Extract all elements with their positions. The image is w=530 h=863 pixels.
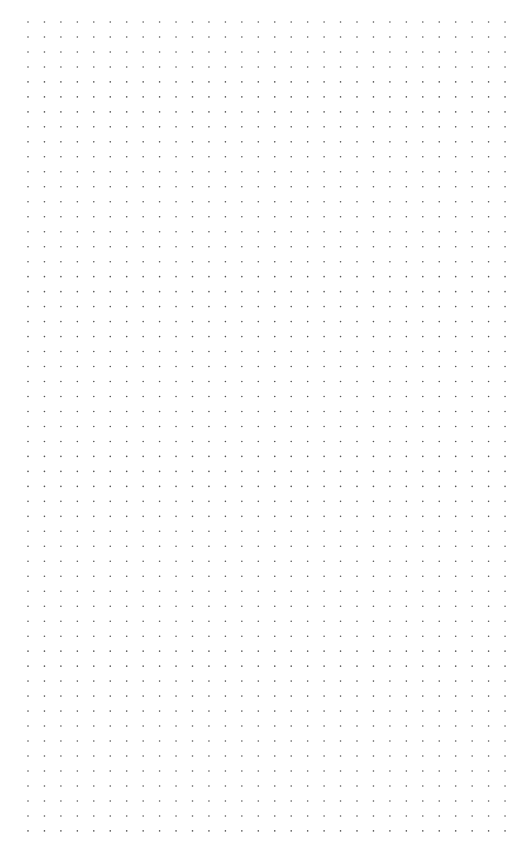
grid-dot — [225, 800, 227, 802]
grid-dot — [225, 755, 227, 757]
grid-dot — [406, 351, 408, 353]
grid-dot — [488, 785, 490, 787]
grid-dot — [307, 471, 309, 473]
grid-dot — [340, 276, 342, 278]
grid-dot — [192, 411, 194, 413]
grid-dot — [159, 560, 161, 562]
grid-dot — [159, 171, 161, 173]
grid-dot — [126, 770, 128, 772]
grid-dot — [455, 620, 457, 622]
grid-dot — [422, 830, 424, 832]
grid-dot — [307, 695, 309, 697]
grid-dot — [77, 126, 79, 128]
grid-dot — [60, 156, 62, 158]
grid-dot — [208, 800, 210, 802]
grid-dot — [471, 201, 473, 203]
grid-dot — [373, 51, 375, 53]
grid-dot — [77, 501, 79, 503]
grid-dot — [175, 605, 177, 607]
grid-dot — [504, 36, 506, 38]
grid-dot — [126, 156, 128, 158]
grid-dot — [307, 246, 309, 248]
grid-dot — [44, 126, 46, 128]
grid-dot — [142, 141, 144, 143]
grid-dot — [126, 665, 128, 667]
grid-dot — [438, 620, 440, 622]
grid-dot — [274, 126, 276, 128]
grid-dot — [356, 186, 358, 188]
grid-dot — [323, 126, 325, 128]
grid-dot — [438, 695, 440, 697]
grid-dot — [504, 815, 506, 817]
grid-dot — [225, 156, 227, 158]
grid-dot — [406, 516, 408, 518]
grid-dot — [406, 441, 408, 443]
grid-dot — [44, 231, 46, 233]
grid-dot — [77, 830, 79, 832]
grid-dot — [488, 381, 490, 383]
grid-dot — [208, 560, 210, 562]
grid-dot — [290, 171, 292, 173]
grid-dot — [504, 501, 506, 503]
grid-dot — [340, 411, 342, 413]
grid-dot — [192, 575, 194, 577]
grid-dot — [323, 426, 325, 428]
grid-dot — [93, 66, 95, 68]
grid-dot — [422, 111, 424, 113]
grid-dot — [340, 351, 342, 353]
grid-dot — [192, 201, 194, 203]
grid-dot — [258, 501, 260, 503]
grid-dot — [438, 665, 440, 667]
grid-dot — [488, 770, 490, 772]
grid-dot — [422, 96, 424, 98]
grid-dot — [241, 815, 243, 817]
grid-dot — [471, 306, 473, 308]
grid-dot — [290, 426, 292, 428]
grid-dot — [488, 441, 490, 443]
grid-dot — [109, 665, 111, 667]
grid-dot — [77, 246, 79, 248]
grid-dot — [175, 665, 177, 667]
grid-dot — [77, 471, 79, 473]
grid-dot — [175, 486, 177, 488]
grid-dot — [373, 36, 375, 38]
grid-dot — [93, 486, 95, 488]
grid-dot — [290, 336, 292, 338]
grid-dot — [504, 695, 506, 697]
grid-dot — [258, 51, 260, 53]
grid-dot — [422, 620, 424, 622]
grid-dot — [258, 755, 260, 757]
grid-dot — [27, 171, 29, 173]
grid-dot — [389, 381, 391, 383]
grid-dot — [44, 531, 46, 533]
grid-dot — [471, 396, 473, 398]
grid-dot — [258, 366, 260, 368]
grid-dot — [471, 471, 473, 473]
grid-dot — [471, 36, 473, 38]
grid-dot — [44, 111, 46, 113]
grid-dot — [406, 710, 408, 712]
grid-dot — [471, 501, 473, 503]
grid-dot — [307, 635, 309, 637]
grid-dot — [340, 261, 342, 263]
grid-dot — [471, 156, 473, 158]
grid-dot — [422, 216, 424, 218]
grid-dot — [340, 21, 342, 23]
grid-dot — [159, 605, 161, 607]
grid-dot — [241, 351, 243, 353]
grid-dot — [109, 546, 111, 548]
grid-dot — [438, 426, 440, 428]
grid-dot — [290, 785, 292, 787]
grid-dot — [406, 141, 408, 143]
grid-dot — [109, 51, 111, 53]
grid-dot — [77, 306, 79, 308]
grid-dot — [504, 156, 506, 158]
grid-dot — [290, 216, 292, 218]
grid-dot — [225, 306, 227, 308]
grid-dot — [422, 516, 424, 518]
grid-dot — [323, 246, 325, 248]
grid-dot — [142, 456, 144, 458]
grid-dot — [44, 306, 46, 308]
grid-dot — [192, 186, 194, 188]
grid-dot — [208, 456, 210, 458]
